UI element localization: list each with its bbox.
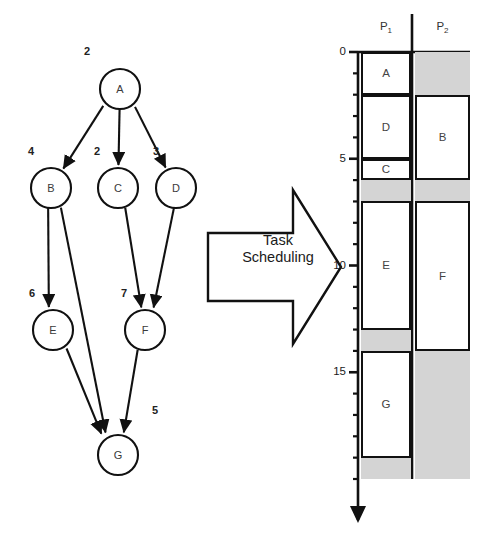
schedule-block-label-F: F: [417, 270, 468, 282]
schedule-block-B[interactable]: B: [415, 95, 470, 180]
schedule-block-label-D: D: [363, 121, 409, 133]
time-tick-label-10: 10: [314, 259, 346, 271]
schedule-block-F[interactable]: F: [415, 201, 470, 350]
schedule-idle-slot-P2: [415, 351, 470, 479]
schedule-block-label-B: B: [417, 131, 468, 143]
schedule-block-label-E: E: [363, 259, 409, 271]
schedule-idle-slot-P2: [415, 180, 470, 201]
schedule-idle-slot-P1: [361, 180, 411, 201]
schedule-idle-slot-P1: [361, 458, 411, 479]
schedule-block-D[interactable]: D: [361, 95, 411, 159]
figure-canvas: A2B4C2D3E6F7G5 Task Scheduling P1P2 ADCE…: [0, 0, 486, 538]
schedule-block-G[interactable]: G: [361, 351, 411, 458]
schedule-block-C[interactable]: C: [361, 159, 411, 180]
schedule-idle-slot-P1: [361, 330, 411, 351]
time-tick-label-15: 15: [314, 365, 346, 377]
time-tick-label-5: 5: [314, 152, 346, 164]
schedule-block-E[interactable]: E: [361, 201, 411, 329]
schedule-idle-slot-P2: [415, 52, 470, 95]
time-tick-label-0: 0: [314, 45, 346, 57]
schedule-block-label-C: C: [363, 163, 409, 175]
schedule-block-A[interactable]: A: [361, 52, 411, 95]
schedule-block-label-A: A: [363, 67, 409, 79]
schedule-block-label-G: G: [363, 398, 409, 410]
schedule-gantt-chart: P1P2 ADCEGBF 051015: [0, 0, 486, 538]
